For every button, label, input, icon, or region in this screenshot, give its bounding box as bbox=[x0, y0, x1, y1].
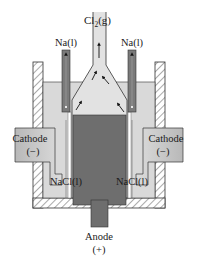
sodium-label-right: Na(l) bbox=[121, 37, 144, 49]
chlorine-gas-label: Cl2(g) bbox=[84, 14, 111, 29]
nacl-label-left: NaCl(l) bbox=[50, 176, 83, 188]
anode-label: Anode bbox=[85, 231, 113, 242]
anode bbox=[73, 115, 126, 227]
cathode-sign-left: (−) bbox=[27, 146, 40, 158]
anode-sign: (+) bbox=[93, 244, 106, 256]
sodium-label-left: Na(l) bbox=[55, 37, 78, 49]
nacl-label-right: NaCl(l) bbox=[116, 176, 149, 188]
cathode-label-right: Cathode bbox=[149, 133, 184, 144]
cathode-label-left: Cathode bbox=[13, 133, 48, 144]
cathode-sign-right: (−) bbox=[157, 146, 170, 158]
downs-cell-diagram: Cl2(g) Na(l) Na(l) Cathode (−) Cathode (… bbox=[0, 0, 198, 258]
